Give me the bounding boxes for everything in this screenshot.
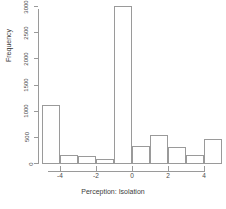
bar-baseline bbox=[42, 163, 222, 164]
y-axis-tick: 1000 bbox=[34, 111, 38, 112]
x-axis-tick bbox=[96, 166, 97, 171]
y-axis-tick-label: 1000 bbox=[22, 104, 28, 117]
x-axis-title: Perception: Isolation bbox=[0, 188, 226, 195]
y-axis-tick: 0 bbox=[34, 163, 38, 164]
histogram-bar bbox=[132, 146, 150, 163]
y-axis-tick: 2500 bbox=[34, 32, 38, 33]
histogram-bar bbox=[186, 155, 204, 163]
x-axis-tick-label: 0 bbox=[130, 173, 134, 180]
x-axis-tick bbox=[204, 166, 205, 171]
y-axis-tick-label: 0 bbox=[27, 162, 33, 165]
y-axis-line bbox=[38, 9, 39, 164]
y-axis-tick: 1500 bbox=[34, 85, 38, 86]
histogram-bar bbox=[204, 139, 222, 163]
histogram-bar bbox=[114, 6, 132, 163]
x-axis-tick bbox=[132, 166, 133, 171]
x-axis-tick-label: -2 bbox=[93, 173, 99, 180]
x-axis-tick bbox=[168, 166, 169, 171]
y-axis-title: Frequency bbox=[5, 29, 12, 62]
x-axis-tick bbox=[60, 166, 61, 171]
y-axis-tick-label: 2500 bbox=[22, 26, 28, 39]
x-axis-tick-label: 2 bbox=[166, 173, 170, 180]
y-axis-tick-label: 3000 bbox=[22, 0, 28, 13]
plot-area bbox=[42, 6, 222, 163]
histogram-bar bbox=[168, 147, 186, 163]
histogram-bar bbox=[150, 135, 168, 163]
x-axis-tick-label: -4 bbox=[57, 173, 63, 180]
y-axis-tick-label: 2000 bbox=[22, 52, 28, 65]
x-axis-tick-label: 4 bbox=[202, 173, 206, 180]
y-axis-tick-label: 500 bbox=[24, 132, 30, 142]
histogram-bar bbox=[60, 155, 78, 163]
y-axis-tick: 500 bbox=[34, 137, 38, 138]
y-axis-tick-label: 1500 bbox=[22, 78, 28, 91]
y-axis-tick: 3000 bbox=[34, 6, 38, 7]
y-axis-tick: 2000 bbox=[34, 58, 38, 59]
histogram-bar bbox=[42, 105, 60, 163]
histogram-bar bbox=[78, 156, 96, 163]
histogram-figure: 050010001500200025003000 -4-2024 Frequen… bbox=[0, 0, 226, 209]
x-axis-line bbox=[48, 171, 205, 172]
